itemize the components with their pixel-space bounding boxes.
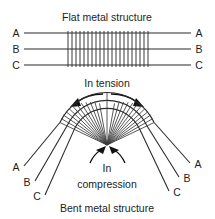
bent-label-left-c: C bbox=[33, 190, 41, 202]
tension-label: In tension bbox=[84, 77, 130, 89]
diagram-canvas: Flat metal structure bbox=[0, 0, 215, 219]
flat-hatch-group bbox=[68, 31, 148, 67]
flat-label-right-a: A bbox=[195, 27, 202, 39]
bent-label-left-a: A bbox=[12, 161, 19, 173]
bent-leg-right-a bbox=[154, 123, 190, 164]
compression-label-line2: compression bbox=[77, 178, 137, 190]
bending-stress-diagram: Flat metal structure bbox=[0, 0, 215, 219]
bent-label-right-a: A bbox=[194, 158, 201, 170]
flat-structure-title: Flat metal structure bbox=[62, 11, 152, 23]
flat-label-right-b: B bbox=[195, 43, 202, 55]
bent-fan-group bbox=[60, 93, 154, 145]
bent-label-right-b: B bbox=[183, 172, 190, 184]
flat-label-right-c: C bbox=[195, 59, 203, 71]
bent-label-left-b: B bbox=[23, 176, 30, 188]
bent-leg-left-a bbox=[24, 123, 60, 167]
compression-arrow-right-curve bbox=[114, 150, 125, 163]
bent-structure-group: In compression A B C A B C Bent metal st… bbox=[12, 93, 201, 214]
flat-structure-group: Flat metal structure bbox=[12, 11, 203, 71]
compression-annotation-group: In compression bbox=[77, 146, 137, 190]
bent-structure-title: Bent metal structure bbox=[60, 202, 154, 214]
bent-leg-right-b bbox=[147, 126, 179, 177]
flat-label-left-c: C bbox=[12, 59, 20, 71]
flat-label-left-a: A bbox=[12, 27, 19, 39]
compression-arrow-left-curve bbox=[90, 150, 101, 163]
bent-label-right-c: C bbox=[173, 186, 181, 198]
flat-label-left-b: B bbox=[12, 43, 19, 55]
compression-label-line1: In bbox=[103, 162, 112, 174]
